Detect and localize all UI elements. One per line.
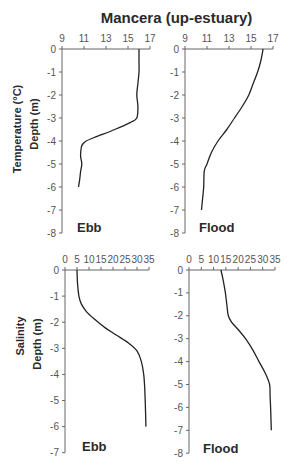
x-tick-label: 15 [220,254,232,265]
y-tick-label: 0 [53,265,59,276]
x-tick-label: 0 [62,254,68,265]
profile-line [77,270,146,427]
x-tick-label: 10 [208,254,220,265]
x-tick-label: 15 [95,254,107,265]
y-tick-label: -1 [47,67,56,78]
x-tick-label: 15 [245,33,257,44]
y-tick-label: -1 [174,287,183,298]
x-tick-label: 17 [267,33,279,44]
y-tick-label: -3 [174,333,183,344]
profile-line [221,270,271,430]
y-tick-label: -6 [47,182,56,193]
figure-canvas: 9111315170-1-2-3-4-5-6-7-8 9111315170-1-… [0,0,295,472]
y-tick-label: -2 [47,90,56,101]
y-tick-label: -8 [170,228,179,239]
profile-line [202,49,264,210]
x-tick-label: 0 [186,254,192,265]
y-tick-label: -5 [47,159,56,170]
x-tick-label: 20 [107,254,119,265]
y-tick-label: -2 [50,317,59,328]
y-tick-label: -2 [174,310,183,321]
y-tick-label: -6 [174,402,183,413]
y-tick-label: -1 [50,291,59,302]
x-tick-label: 30 [257,254,269,265]
y-tick-label: -6 [170,182,179,193]
x-tick-label: 35 [269,254,281,265]
y-tick-label: 0 [177,265,183,276]
y-tick-label: -4 [47,136,56,147]
y-tick-label: -7 [170,205,179,216]
y-tick-label: -4 [174,356,183,367]
x-tick-label: 9 [59,33,65,44]
y-tick-label: -6 [50,421,59,432]
y-tick-label: -7 [50,447,59,458]
y-tick-label: -2 [170,90,179,101]
x-tick-label: 11 [202,33,213,44]
panel-temperature-flood: 9111315170-1-2-3-4-5-6-7-8 [170,33,279,239]
panel-temperature-ebb: 9111315170-1-2-3-4-5-6-7-8 [47,33,156,239]
panel-salinity-flood: 051015202530350-1-2-3-4-5-6-7-8 [174,254,281,459]
x-tick-label: 10 [83,254,95,265]
x-tick-label: 17 [144,33,156,44]
panel-salinity-ebb: 051015202530350-1-2-3-4-5-6-7 [50,254,155,458]
y-tick-label: 0 [173,44,179,55]
x-tick-label: 25 [245,254,257,265]
y-tick-label: -7 [174,425,183,436]
y-tick-label: -1 [170,67,179,78]
x-tick-label: 13 [100,33,112,44]
x-tick-label: 5 [199,254,205,265]
y-tick-label: -8 [174,448,183,459]
y-tick-label: -3 [50,343,59,354]
x-tick-label: 13 [223,33,235,44]
y-tick-label: -3 [170,113,179,124]
y-tick-label: -8 [47,228,56,239]
x-tick-label: 20 [233,254,245,265]
y-tick-label: -4 [50,369,59,380]
y-tick-label: -7 [47,205,56,216]
x-tick-label: 30 [131,254,143,265]
y-tick-label: -5 [174,379,183,390]
y-tick-label: -5 [50,395,59,406]
x-tick-label: 25 [119,254,131,265]
x-tick-label: 15 [122,33,134,44]
x-tick-label: 5 [74,254,80,265]
y-tick-label: -3 [47,113,56,124]
profile-line [79,49,140,187]
y-tick-label: -4 [170,136,179,147]
y-tick-label: 0 [50,44,56,55]
x-tick-label: 11 [79,33,90,44]
x-tick-label: 9 [182,33,188,44]
x-tick-label: 35 [143,254,155,265]
y-tick-label: -5 [170,159,179,170]
